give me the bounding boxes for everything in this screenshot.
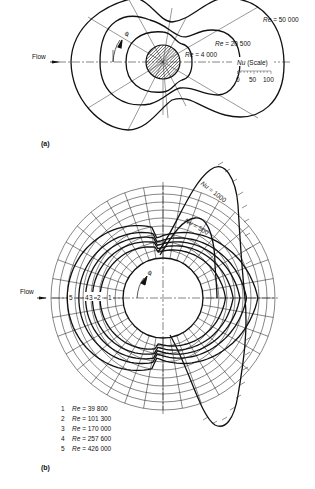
nu-scale-tick-100: 100 — [263, 76, 274, 83]
legend-item: 3 Re = 170 000 — [61, 425, 112, 432]
grid-spoke — [144, 188, 157, 259]
grid-spoke — [170, 188, 183, 259]
cylinder-a — [146, 45, 180, 79]
hatch-tick — [238, 192, 243, 195]
grid-spoke — [66, 242, 128, 278]
label-re-20500: Re = 20 500 — [215, 40, 251, 47]
nu-scale-tick-0: 0 — [236, 76, 240, 83]
hatch-tick — [244, 219, 249, 222]
hatch-tick — [203, 417, 208, 420]
svg-text:Re = 170 000: Re = 170 000 — [72, 425, 112, 432]
panel-label-a: (a) — [41, 140, 50, 148]
curve-number-3: 3 — [89, 294, 93, 301]
label-re-50000: Re = 50 000 — [263, 16, 299, 23]
hatch-tick — [242, 205, 247, 208]
legend-item: 5 Re = 426 000 — [61, 445, 112, 452]
flow-label-a: Flow — [32, 53, 46, 60]
flow-indicator-a: Flow — [32, 53, 60, 64]
curve-number-2: 2 — [97, 294, 101, 301]
nu-scale-title: Nu (Scale) — [237, 59, 268, 67]
legend-b: 1 Re = 39 800 2 Re = 101 300 3 Re = 170 … — [61, 405, 112, 452]
svg-text:1: 1 — [61, 405, 65, 412]
diagram-canvas: φ Flow Re = 50 000 Re = 20 500 Re = 4 00… — [0, 0, 315, 489]
svg-text:Re = 39 800: Re = 39 800 — [72, 405, 108, 412]
flow-indicator-b: Flow — [20, 288, 47, 300]
hatch-tick — [240, 382, 245, 385]
figure-a: φ Flow Re = 50 000 Re = 20 500 Re = 4 00… — [32, 0, 299, 148]
nu-scale: Nu (Scale) 0 50 100 — [232, 57, 274, 83]
svg-text:Re = 101 300: Re = 101 300 — [72, 415, 112, 422]
svg-text:4: 4 — [61, 435, 65, 442]
hatch-tick — [246, 261, 251, 264]
curve-number-1: 1 — [108, 294, 112, 301]
label-re-4000: Re = 4 000 — [185, 51, 217, 58]
nu-scale-tick-50: 50 — [249, 76, 257, 83]
svg-text:3: 3 — [61, 425, 65, 432]
svg-text:Re = 426 000: Re = 426 000 — [72, 445, 112, 452]
grid-spoke — [198, 318, 260, 354]
phi-symbol-a: φ — [123, 29, 131, 38]
hatch-tick — [246, 247, 251, 250]
curve-number-5: 5 — [69, 294, 73, 301]
legend-item: 4 Re = 257 600 — [61, 435, 112, 442]
svg-text:Re = 257 600: Re = 257 600 — [72, 435, 112, 442]
hatch-tick — [245, 352, 250, 355]
nu-scale-ruler — [238, 71, 272, 74]
flow-arrow-icon — [52, 61, 60, 64]
hatch-tick — [245, 233, 250, 236]
hatch-tick — [222, 417, 227, 420]
flow-label-b: Flow — [20, 288, 34, 295]
label-nu-1000: Nu = 1000 — [200, 179, 228, 203]
panel-label-b: (b) — [41, 464, 50, 472]
svg-text:5: 5 — [61, 445, 65, 452]
figure-b: Nu = 1000 Nu = 500 φ Flow 5 4 3 2 1 — [20, 162, 278, 472]
svg-text:2: 2 — [61, 415, 65, 422]
hatch-tick — [218, 162, 223, 165]
legend-item: 2 Re = 101 300 — [61, 415, 112, 422]
grid-spoke — [66, 318, 128, 354]
angle-marker-b: φ — [137, 268, 154, 298]
grid-spoke — [194, 324, 249, 370]
legend-item: 1 Re = 39 800 — [61, 405, 108, 412]
grid-spoke — [144, 337, 157, 408]
flow-arrow-icon — [39, 297, 47, 300]
